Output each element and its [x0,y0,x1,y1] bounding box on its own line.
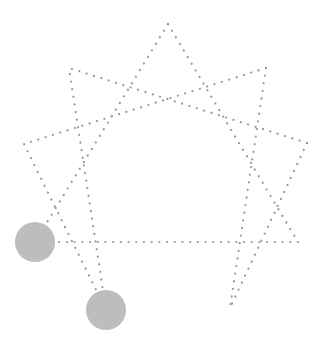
star-edge-v2-v8 [69,68,307,143]
enneagram-diagram [0,0,327,353]
star-edge-v0-v6 [35,24,168,242]
star-edges [24,24,307,310]
star-edge-v1-v7 [24,68,266,144]
marker-lower-left [15,222,55,262]
star-edge-v2-v4 [230,143,307,308]
star-edge-v0-v3 [168,24,298,242]
star-edge-v5-v8 [69,68,106,310]
star-edge-v1-v4 [230,68,266,308]
marker-bottom-left [86,290,126,330]
vertex-markers [15,222,126,330]
